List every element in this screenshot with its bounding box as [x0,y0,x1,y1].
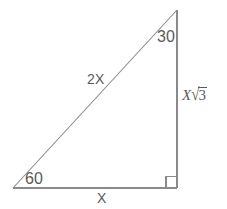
side-label-height-x-sqrt-3: X√3 [182,87,207,103]
square-root-icon: √3 [191,87,207,103]
radicand-text: 3 [198,87,207,103]
side-label-hypotenuse-2x: 2X [87,72,105,86]
triangle-hypotenuse-line [13,10,177,188]
geometry-figure: 30 60 2X X X√3 [0,0,227,209]
right-angle-marker-icon [166,177,177,188]
side-label-base-x: X [97,191,107,205]
angle-label-30: 30 [157,29,175,45]
angle-label-60: 60 [25,171,43,187]
height-variable-text: X [182,87,191,103]
